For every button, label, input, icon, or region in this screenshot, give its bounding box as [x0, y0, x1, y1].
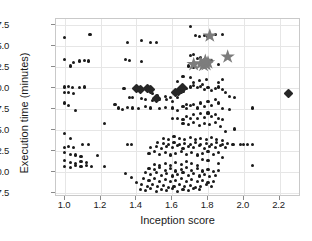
data-point-dot — [83, 85, 86, 88]
data-point-dot — [187, 174, 190, 177]
data-point-dot — [135, 181, 138, 184]
data-point-star — [220, 49, 235, 64]
data-point-dot — [221, 118, 224, 121]
data-point-dot — [131, 96, 134, 99]
data-point-dot — [183, 142, 186, 145]
data-point-dot — [242, 143, 245, 146]
data-point-dot — [203, 147, 206, 150]
data-point-dot — [69, 153, 72, 156]
y-tick-label: 15.0 — [0, 123, 9, 134]
data-point-dot — [79, 155, 82, 158]
data-point-dot — [153, 150, 156, 153]
data-point-dot — [196, 153, 199, 156]
x-tick-mark — [64, 196, 65, 200]
data-point-dot — [151, 183, 154, 186]
data-point-dot — [181, 171, 184, 174]
data-point-dot — [189, 184, 192, 187]
data-point-dot — [144, 189, 147, 192]
data-point-dot — [198, 174, 201, 177]
y-tick-mark — [51, 108, 55, 109]
data-point-dot — [79, 165, 82, 168]
data-point-dot — [180, 177, 183, 180]
data-point-dot — [224, 91, 227, 94]
gridline-horizontal — [56, 193, 299, 194]
data-point-dot — [158, 107, 161, 110]
data-point-dot — [74, 109, 77, 112]
data-point-dot — [201, 179, 204, 182]
data-point-dot — [181, 75, 184, 78]
x-axis-label: Inception score — [55, 214, 300, 226]
data-point-dot — [181, 122, 184, 125]
data-point-dot — [189, 136, 192, 139]
y-tick-label: 7.5 — [0, 186, 9, 197]
data-point-dot — [221, 156, 224, 159]
data-point-dot — [171, 117, 174, 120]
data-point-dot — [208, 145, 211, 148]
data-point-dot — [185, 166, 188, 169]
gridline-horizontal — [56, 46, 299, 47]
data-point-dot — [192, 146, 195, 149]
data-point-dot — [178, 137, 181, 140]
data-point-dot — [192, 121, 195, 124]
data-point-dot — [171, 146, 174, 149]
data-point-dot — [63, 58, 66, 61]
data-point-dot — [176, 144, 179, 147]
data-point-dot — [171, 187, 174, 190]
data-point-dot — [185, 115, 188, 118]
gridline-horizontal — [56, 151, 299, 152]
data-point-dot — [103, 122, 106, 125]
data-point-dot — [149, 41, 152, 44]
data-point-dot — [180, 150, 183, 153]
data-point-dot — [217, 63, 220, 66]
data-point-dot — [130, 176, 133, 179]
data-point-dot — [63, 165, 66, 168]
x-tick-label: 1.8 — [187, 199, 227, 210]
data-point-dot — [217, 169, 220, 172]
data-point-dot — [210, 89, 213, 92]
x-tick-mark — [135, 196, 136, 200]
data-point-dot — [144, 98, 147, 101]
data-point-dot — [214, 146, 217, 149]
data-point-dot — [199, 101, 202, 104]
data-point-dot — [203, 122, 206, 125]
x-tick-mark — [207, 196, 208, 200]
data-point-dot — [69, 64, 72, 67]
data-point-diamond — [151, 94, 161, 104]
data-point-dot — [219, 125, 222, 128]
y-tick-label: 17.5 — [0, 102, 9, 113]
data-point-dot — [206, 168, 209, 171]
data-point-dot — [162, 184, 165, 187]
x-tick-label: 1.4 — [115, 199, 155, 210]
y-tick-mark — [51, 87, 55, 88]
x-tick-label: 1.6 — [151, 199, 191, 210]
data-point-dot — [88, 33, 91, 36]
data-point-dot — [74, 164, 77, 167]
data-point-dot — [231, 143, 234, 146]
data-point-dot — [155, 41, 158, 44]
y-tick-mark — [51, 45, 55, 46]
data-point-dot — [78, 86, 81, 89]
data-point-dot — [169, 96, 172, 99]
data-point-dot — [171, 174, 174, 177]
y-tick-mark — [51, 171, 55, 172]
data-point-dot — [199, 112, 202, 115]
data-point-dot — [210, 104, 213, 107]
data-point-dot — [233, 96, 236, 99]
data-point-diamond — [284, 89, 294, 99]
y-tick-mark — [51, 66, 55, 67]
y-tick-mark — [51, 24, 55, 25]
data-point-dot — [208, 175, 211, 178]
data-point-dot — [183, 138, 186, 141]
data-point-dot — [192, 53, 195, 56]
data-point-dot — [192, 172, 195, 175]
data-point-dot — [174, 152, 177, 155]
data-point-dot — [198, 35, 201, 38]
data-point-dot — [87, 143, 90, 146]
data-point-dot — [162, 142, 165, 145]
data-point-dot — [113, 103, 116, 106]
data-point-dot — [246, 143, 249, 146]
data-point-dot — [192, 84, 195, 87]
data-point-dot — [169, 153, 172, 156]
data-point-dot — [147, 152, 150, 155]
y-tick-label: 12.5 — [0, 144, 9, 155]
